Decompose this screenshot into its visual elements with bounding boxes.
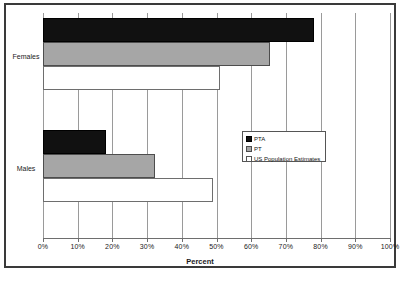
gridline-70 xyxy=(286,13,287,238)
bar-females-pta xyxy=(43,18,314,42)
tick-20 xyxy=(112,238,113,242)
legend-item-pta: PTA xyxy=(246,134,323,143)
tick-80 xyxy=(321,238,322,242)
legend-swatch-population xyxy=(246,156,252,162)
gridline-100 xyxy=(390,13,391,238)
bar-females-population xyxy=(43,66,220,90)
chart-figure: PTA PT US Population Estimates Females M… xyxy=(4,3,396,268)
x-axis-title: Percent xyxy=(6,257,394,266)
legend-swatch-pta xyxy=(246,136,252,142)
bar-males-pta xyxy=(43,130,106,154)
tick-90 xyxy=(355,238,356,242)
bar-females-pt xyxy=(43,42,270,66)
legend-item-pt: PT xyxy=(246,144,323,153)
bar-males-population xyxy=(43,178,213,202)
tick-50 xyxy=(217,238,218,242)
x-tick-label-100: 100% xyxy=(370,243,407,250)
tick-30 xyxy=(147,238,148,242)
plot-area: PTA PT US Population Estimates xyxy=(43,13,390,238)
bar-males-pt xyxy=(43,154,155,178)
gridline-90 xyxy=(355,13,356,238)
tick-10 xyxy=(78,238,79,242)
chart-legend: PTA PT US Population Estimates xyxy=(242,131,326,162)
tick-60 xyxy=(251,238,252,242)
tick-0 xyxy=(43,238,44,242)
category-label-females: Females xyxy=(8,53,44,60)
legend-label-population: US Population Estimates xyxy=(254,155,320,163)
legend-swatch-pt xyxy=(246,146,252,152)
tick-100 xyxy=(390,238,391,242)
legend-label-pt: PT xyxy=(254,145,262,153)
tick-70 xyxy=(286,238,287,242)
category-label-males: Males xyxy=(8,165,44,172)
legend-item-population: US Population Estimates xyxy=(246,154,323,163)
legend-label-pta: PTA xyxy=(254,135,265,143)
gridline-80 xyxy=(321,13,322,238)
tick-40 xyxy=(182,238,183,242)
